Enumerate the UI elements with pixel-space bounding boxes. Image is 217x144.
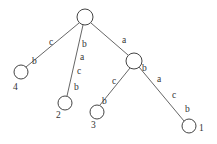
- edge-label: c: [77, 66, 81, 76]
- leaf-label-3: 3: [91, 120, 96, 130]
- edge-label: b: [185, 104, 190, 114]
- leaf-node-3: [90, 105, 104, 119]
- leaf-node-1: [182, 119, 196, 133]
- suffix-trie-diagram: c b b a c b a c b b a c b 4 2 3 1: [0, 0, 217, 144]
- edge-label: a: [157, 74, 162, 84]
- edge-label: b: [74, 82, 79, 92]
- leaf-label-4: 4: [13, 82, 18, 92]
- edge-internal-a-to-leaf-1: [139, 67, 184, 121]
- edge-label: b: [82, 39, 87, 49]
- edge-label: c: [172, 90, 176, 100]
- edge-label: c: [49, 37, 53, 47]
- edge-label: a: [80, 52, 85, 62]
- edge-label: a: [122, 35, 127, 45]
- edge-label: b: [102, 96, 107, 106]
- leaf-node-2: [58, 96, 72, 110]
- edge-label: b: [142, 63, 147, 73]
- root-node: [77, 9, 93, 25]
- edge-label: b: [32, 56, 37, 66]
- leaf-label-2: 2: [56, 110, 61, 120]
- internal-node-a: [126, 53, 142, 69]
- leaf-label-1: 1: [199, 123, 204, 133]
- leaf-node-4: [14, 65, 28, 79]
- edge-label: c: [112, 76, 116, 86]
